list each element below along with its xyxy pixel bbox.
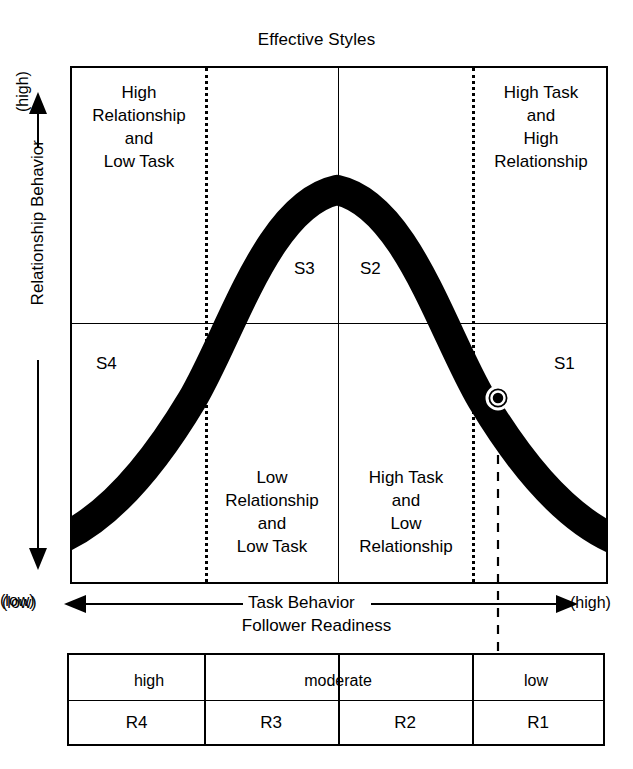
y-axis-title: Relationship Behavior	[28, 140, 48, 305]
x-axis-low-label: (low)	[2, 594, 37, 612]
quadrant-line: Low Task	[208, 535, 336, 558]
quadrant-label-high-task-high-relationship: High Task and High Relationship	[474, 81, 608, 173]
x-axis-title: Task Behavior	[248, 593, 355, 613]
quadrant-line: High	[474, 127, 608, 150]
quadrant-line: Low	[208, 466, 336, 489]
y-axis-high-label: (high)	[14, 68, 32, 112]
readiness-code-r4: R4	[71, 713, 202, 733]
quadrant-label-high-task-low-relationship: High Task and Low Relationship	[340, 466, 472, 558]
quadrant-line: Low Task	[74, 150, 204, 173]
readiness-row-divider	[69, 700, 603, 701]
quadrant-line: and	[474, 104, 608, 127]
readiness-label-moderate: moderate	[206, 672, 470, 690]
quadrant-line: and	[340, 489, 472, 512]
y-axis-arrow-down	[29, 548, 47, 570]
quadrant-label-low-relationship-low-task: Low Relationship and Low Task	[208, 466, 336, 558]
style-code-s3: S3	[294, 259, 315, 279]
readiness-label-low: low	[501, 672, 571, 690]
quadrant-line: Relationship	[340, 535, 472, 558]
style-code-s1: S1	[554, 354, 575, 374]
quadrant-label-high-relationship-low-task: High Relationship and Low Task	[74, 81, 204, 173]
quadrant-line: High	[74, 81, 204, 104]
quadrant-line: and	[208, 512, 336, 535]
readiness-label-high: high	[97, 672, 201, 690]
x-axis-arrow-left	[64, 595, 86, 613]
page-title: Effective Styles	[0, 30, 633, 50]
readiness-code-r3: R3	[206, 713, 336, 733]
quadrant-divider-horizontal	[72, 323, 606, 324]
quadrant-line: Relationship	[74, 104, 204, 127]
quadrant-line: High Task	[474, 81, 608, 104]
quadrant-line: and	[74, 127, 204, 150]
situational-leadership-diagram: Effective Styles High Relationship and L…	[0, 0, 633, 769]
style-code-s2: S2	[360, 259, 381, 279]
effective-styles-plot: High Relationship and Low Task High Task…	[70, 66, 608, 584]
quadrant-line: Relationship	[208, 489, 336, 512]
x-axis-high-label: (high)	[570, 594, 611, 612]
follower-readiness-heading: Follower Readiness	[0, 616, 633, 636]
quadrant-line: High Task	[340, 466, 472, 489]
follower-readiness-table: high moderate low R4 R3 R2 R1	[67, 653, 605, 746]
readiness-code-r2: R2	[340, 713, 470, 733]
quadrant-divider-center	[338, 68, 339, 582]
quadrant-line: Low	[340, 512, 472, 535]
style-code-s4: S4	[96, 354, 117, 374]
readiness-code-r1: R1	[474, 713, 602, 733]
quadrant-line: Relationship	[474, 150, 608, 173]
